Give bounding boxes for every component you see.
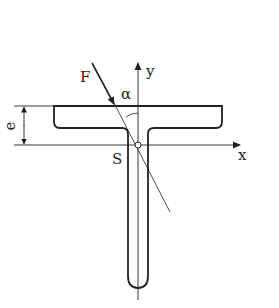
x-axis-label: x (238, 146, 247, 164)
t-section-diagram: F α y x S e (0, 0, 279, 308)
force-arrow (92, 63, 114, 104)
angle-label: α (121, 85, 131, 103)
y-axis-label: y (145, 62, 155, 80)
force-line-of-action (114, 103, 170, 212)
centroid-point (135, 142, 141, 148)
centroid-label: S (112, 150, 122, 168)
angle-arc (126, 113, 138, 117)
force-label: F (80, 68, 90, 86)
distance-e-label: e (1, 121, 19, 130)
